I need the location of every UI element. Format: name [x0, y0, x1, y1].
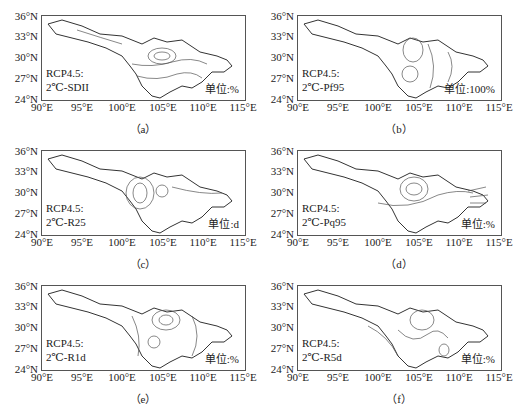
x-tick-95: 95°E: [318, 371, 358, 383]
y-tick-27: 27°N: [0, 342, 38, 354]
y-tick-33: 33°N: [0, 165, 38, 177]
unit-label: 单位:%: [205, 350, 239, 366]
y-tick-30: 30°N: [0, 186, 38, 198]
y-tick-30: 30°N: [256, 186, 294, 198]
scenario-label: RCP4.5: 2℃-Pf95: [302, 66, 344, 94]
scenario-line1: RCP4.5:: [46, 201, 86, 215]
scenario-line2: 2℃-R5d: [302, 350, 342, 364]
x-tick-100: 100°E: [358, 101, 398, 113]
map-panel-a: 36°N 33°N 30°N 27°N 24°N RCP4.5: 2℃-SDII…: [0, 10, 262, 146]
unit-label: 单位:%: [461, 350, 495, 366]
scenario-label: RCP4.5: 2℃-R1d: [46, 336, 86, 364]
unit-label: 单位:100%: [444, 80, 495, 96]
x-tick-95: 95°E: [62, 371, 102, 383]
x-tick-90: 90°E: [22, 236, 62, 248]
x-tick-110: 110°E: [439, 236, 479, 248]
x-tick-90: 90°E: [278, 371, 318, 383]
scenario-label: RCP4.5: 2℃-R25: [46, 201, 86, 229]
y-tick-27: 27°N: [256, 342, 294, 354]
x-tick-90: 90°E: [22, 101, 62, 113]
y-tick-27: 27°N: [256, 72, 294, 84]
y-tick-30: 30°N: [0, 321, 38, 333]
map-frame: RCP4.5: 2℃-R5d 单位:%: [297, 285, 502, 371]
scenario-line1: RCP4.5:: [302, 336, 342, 350]
y-tick-30: 30°N: [0, 51, 38, 63]
x-tick-115: 115°E: [479, 101, 519, 113]
y-tick-33: 33°N: [0, 30, 38, 42]
x-tick-105: 105°E: [399, 371, 439, 383]
x-tick-90: 90°E: [278, 101, 318, 113]
x-tick-115: 115°E: [479, 371, 519, 383]
map-panel-f: 36°N 33°N 30°N 27°N 24°N RCP4.5: 2℃-R5d …: [256, 280, 518, 408]
x-tick-110: 110°E: [439, 101, 479, 113]
scenario-line2: 2℃-R25: [46, 215, 86, 229]
x-tick-110: 110°E: [439, 371, 479, 383]
panel-caption: （e）: [0, 390, 286, 406]
x-tick-90: 90°E: [278, 236, 318, 248]
y-tick-33: 33°N: [0, 300, 38, 312]
map-panel-e: 36°N 33°N 30°N 27°N 24°N RCP4.5: 2℃-R1d …: [0, 280, 262, 408]
x-tick-110: 110°E: [183, 236, 223, 248]
scenario-line2: 2℃-Pq95: [302, 215, 346, 229]
y-tick-30: 30°N: [256, 51, 294, 63]
x-tick-95: 95°E: [318, 101, 358, 113]
panel-caption: （b）: [256, 120, 524, 136]
scenario-label: RCP4.5: 2℃-R5d: [302, 336, 342, 364]
map-frame: RCP4.5: 2℃-R25 单位:d: [41, 150, 246, 236]
scenario-line2: 2℃-SDII: [46, 80, 89, 94]
scenario-line1: RCP4.5:: [46, 66, 89, 80]
x-tick-100: 100°E: [102, 371, 142, 383]
scenario-line2: 2℃-Pf95: [302, 80, 344, 94]
y-tick-36: 36°N: [0, 280, 38, 292]
x-tick-115: 115°E: [479, 236, 519, 248]
panel-caption: （a）: [0, 120, 286, 136]
x-tick-95: 95°E: [318, 236, 358, 248]
unit-label: 单位:d: [208, 215, 239, 231]
y-tick-27: 27°N: [0, 207, 38, 219]
y-tick-27: 27°N: [256, 207, 294, 219]
scenario-label: RCP4.5: 2℃-Pq95: [302, 201, 346, 229]
x-tick-110: 110°E: [183, 101, 223, 113]
x-tick-105: 105°E: [399, 101, 439, 113]
x-tick-110: 110°E: [183, 371, 223, 383]
panel-caption: （d）: [256, 255, 524, 271]
y-tick-27: 27°N: [0, 72, 38, 84]
panel-caption: （f）: [256, 390, 524, 406]
x-tick-95: 95°E: [62, 236, 102, 248]
map-frame: RCP4.5: 2℃-Pf95 单位:100%: [297, 15, 502, 101]
map-frame: RCP4.5: 2℃-R1d 单位:%: [41, 285, 246, 371]
scenario-label: RCP4.5: 2℃-SDII: [46, 66, 89, 94]
x-tick-100: 100°E: [102, 236, 142, 248]
map-frame: RCP4.5: 2℃-SDII 单位:%: [41, 15, 246, 101]
x-tick-105: 105°E: [399, 236, 439, 248]
unit-label: 单位:%: [461, 215, 495, 231]
y-tick-36: 36°N: [0, 10, 38, 22]
x-tick-100: 100°E: [102, 101, 142, 113]
x-tick-95: 95°E: [62, 101, 102, 113]
map-panel-b: 36°N 33°N 30°N 27°N 24°N RCP4.5: 2℃-Pf95…: [256, 10, 518, 146]
x-tick-105: 105°E: [143, 101, 183, 113]
y-tick-30: 30°N: [256, 321, 294, 333]
map-panel-d: 36°N 33°N 30°N 27°N 24°N RCP4.5: 2℃-Pq95…: [256, 145, 518, 281]
scenario-line1: RCP4.5:: [46, 336, 86, 350]
y-tick-36: 36°N: [256, 280, 294, 292]
unit-label: 单位:%: [205, 80, 239, 96]
scenario-line1: RCP4.5:: [302, 201, 346, 215]
x-tick-105: 105°E: [143, 236, 183, 248]
x-tick-105: 105°E: [143, 371, 183, 383]
y-tick-33: 33°N: [256, 300, 294, 312]
y-tick-33: 33°N: [256, 30, 294, 42]
y-tick-36: 36°N: [256, 10, 294, 22]
x-tick-90: 90°E: [22, 371, 62, 383]
scenario-line2: 2℃-R1d: [46, 350, 86, 364]
panel-caption: （c）: [0, 255, 286, 271]
x-tick-100: 100°E: [358, 371, 398, 383]
scenario-line1: RCP4.5:: [302, 66, 344, 80]
y-tick-36: 36°N: [256, 145, 294, 157]
map-panel-c: 36°N 33°N 30°N 27°N 24°N RCP4.5: 2℃-R25 …: [0, 145, 262, 281]
y-tick-36: 36°N: [0, 145, 38, 157]
x-tick-100: 100°E: [358, 236, 398, 248]
map-frame: RCP4.5: 2℃-Pq95 单位:%: [297, 150, 502, 236]
y-tick-33: 33°N: [256, 165, 294, 177]
